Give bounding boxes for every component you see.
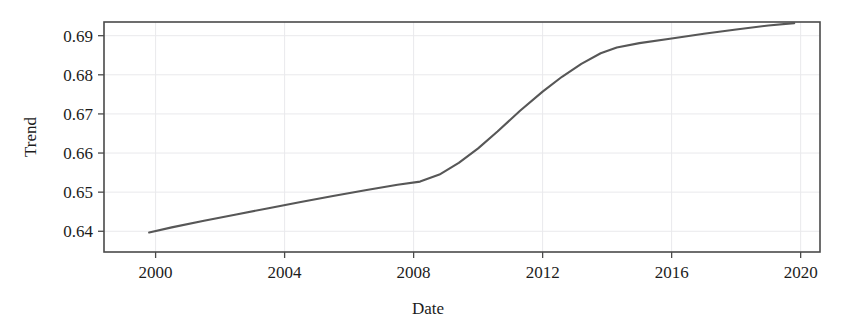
- y-tick-label: 0.67: [63, 105, 93, 124]
- y-axis-ticks: 0.640.650.660.670.680.69: [63, 27, 104, 242]
- x-tick-label: 2008: [397, 263, 431, 282]
- trend-line-chart: 0.640.650.660.670.680.69 200020042008201…: [0, 0, 845, 329]
- y-tick-label: 0.68: [63, 66, 93, 85]
- x-tick-label: 2004: [268, 263, 303, 282]
- x-tick-label: 2020: [784, 263, 818, 282]
- y-tick-label: 0.66: [63, 144, 93, 163]
- plot-frame: [104, 22, 820, 252]
- x-tick-label: 2012: [526, 263, 560, 282]
- x-tick-label: 2016: [655, 263, 689, 282]
- chart-figure: 0.640.650.660.670.680.69 200020042008201…: [0, 0, 845, 329]
- x-tick-label: 2000: [139, 263, 173, 282]
- x-axis-title: Date: [412, 299, 444, 318]
- y-tick-label: 0.64: [63, 222, 93, 241]
- trend-series-line: [149, 23, 794, 232]
- gridlines: [104, 22, 820, 252]
- y-axis-title: Trend: [21, 117, 40, 157]
- x-axis-ticks: 200020042008201220162020: [139, 252, 818, 282]
- y-tick-label: 0.65: [63, 183, 93, 202]
- y-tick-label: 0.69: [63, 27, 93, 46]
